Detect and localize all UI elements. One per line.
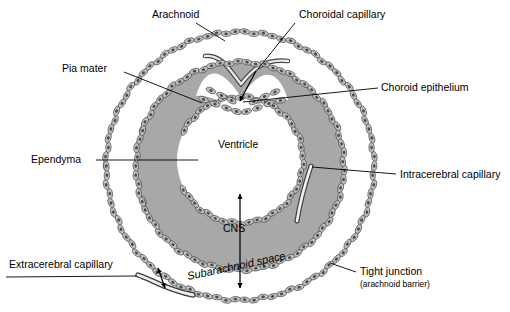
leader-extracerebral-capillary: [6, 276, 136, 277]
leader-tight-junction: [330, 263, 356, 272]
label-intracerebral-capillary: Intracerebral capillary: [400, 168, 501, 180]
label-choroid-epithelium: Choroid epithelium: [381, 81, 469, 93]
label-ventricle: Ventricle: [218, 138, 258, 150]
brain-barrier-diagram: Arachnoid Choroidal capillary Pia mater …: [0, 0, 510, 312]
label-ependyma: Ependyma: [31, 153, 81, 165]
label-tight-junction-sub: (arachnoid barrier): [360, 279, 430, 289]
label-arachnoid: Arachnoid: [152, 8, 199, 20]
label-pia-mater: Pia mater: [62, 62, 107, 74]
figure-canvas: Arachnoid Choroidal capillary Pia mater …: [0, 0, 510, 312]
label-cns: CNS: [223, 222, 245, 234]
extracerebral-capillary-vessel: [138, 268, 193, 295]
label-choroidal-capillary: Choroidal capillary: [299, 8, 386, 20]
label-tight-junction: Tight junction: [360, 265, 422, 277]
label-extracerebral-capillary: Extracerebral capillary: [9, 258, 114, 270]
